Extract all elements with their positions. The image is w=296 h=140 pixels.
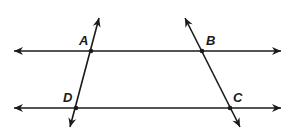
point-label-c: C [233,90,243,105]
point-d [74,106,79,111]
parallel-lines-diagram: ABCD [0,0,296,140]
point-c [228,106,233,111]
point-b [200,49,205,54]
point-label-d: D [63,90,73,105]
point-a [89,49,94,54]
point-label-a: A [78,33,88,48]
point-label-b: B [206,33,215,48]
labels-layer: ABCD [63,33,243,105]
points-layer [74,49,233,111]
bottom-line [14,104,281,112]
lines-layer [14,18,281,127]
top-line [14,47,281,55]
